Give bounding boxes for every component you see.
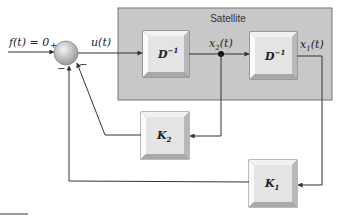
gain-block-k1: K1: [249, 160, 297, 207]
minus-sign-k1: −: [57, 63, 65, 74]
integrator-block-1: D−1: [143, 31, 189, 77]
summing-junction: − −: [54, 41, 87, 74]
gain-block-k2: K2: [141, 112, 189, 159]
x2-label: x2(t): [209, 37, 233, 52]
integrator-block-2: D−1: [250, 32, 297, 79]
minus-sign-k2: −: [79, 59, 87, 70]
satellite-title: Satellite: [210, 13, 246, 24]
input-signal: f(t) = 0 +: [8, 36, 58, 52]
x1-label: x1(t): [300, 38, 324, 53]
block-diagram: Satellite f(t) = 0 + − − u(t) D−1 x2(t): [0, 0, 339, 216]
input-label: f(t) = 0: [8, 36, 49, 49]
u-label: u(t): [91, 36, 111, 49]
